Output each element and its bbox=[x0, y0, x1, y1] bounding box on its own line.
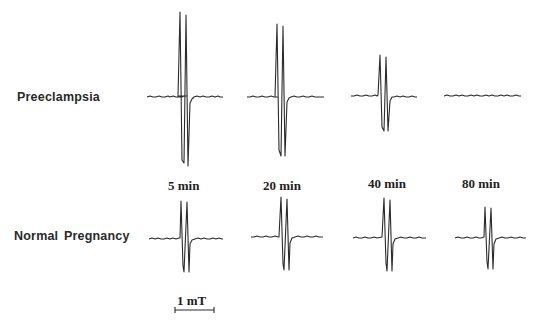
spectra-plot bbox=[0, 0, 538, 327]
scale-bar bbox=[175, 307, 214, 313]
trace-preeclampsia-40min bbox=[351, 55, 417, 131]
trace-normal-20min bbox=[251, 197, 323, 270]
trace-normal-40min bbox=[353, 198, 426, 271]
trace-normal-80min bbox=[455, 207, 526, 269]
trace-preeclampsia-5min bbox=[147, 12, 223, 166]
esr-spectra-figure: Preeclampsia Normal Pregnancy 5 min 20 m… bbox=[0, 0, 538, 327]
trace-preeclampsia-20min bbox=[247, 24, 324, 156]
trace-normal-5min bbox=[149, 201, 223, 272]
trace-preeclampsia-80min bbox=[444, 95, 521, 96]
